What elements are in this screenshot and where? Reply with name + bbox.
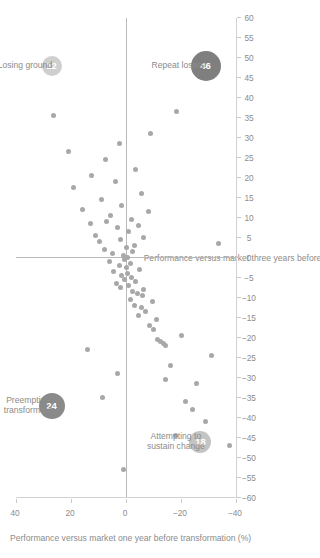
- y-tick-label: 40: [6, 508, 24, 518]
- x-tick-label: −5: [239, 273, 256, 283]
- x-tick-label: 45: [239, 73, 256, 83]
- y-tick: [236, 499, 237, 503]
- x-tick-label: 35: [239, 113, 256, 123]
- x-tick-label: 5: [239, 233, 256, 243]
- x-tick-label: 15: [239, 193, 256, 203]
- x-tick-label: −50: [239, 453, 256, 463]
- x-tick-label: −40: [239, 413, 256, 423]
- x-tick-label: −60: [239, 493, 256, 503]
- x-tick-label: 10: [239, 213, 256, 223]
- y-axis-title: Performance versus market one year befor…: [10, 533, 240, 543]
- x-tick-label: −10: [239, 293, 256, 303]
- x-tick-label: 55: [239, 33, 256, 43]
- x-tick-label: −25: [239, 353, 256, 363]
- label-attempting-to-sustain-change: Attempting tosustain change: [131, 432, 221, 452]
- x-tick-label: −55: [239, 473, 256, 483]
- chart-root: Performance versus market one year befor…: [0, 0, 256, 558]
- y-tick: [126, 499, 127, 503]
- y-axis-line: [16, 497, 237, 498]
- x-tick-label: −20: [239, 333, 256, 343]
- y-tick-label: −20: [171, 508, 189, 518]
- label-losing-ground: Losing ground: [0, 61, 70, 71]
- x-tick-label: −30: [239, 373, 256, 383]
- scatter-figure: Performance versus market one year befor…: [0, 0, 256, 558]
- x-axis-line: [236, 18, 237, 498]
- x-tick-label: 60: [239, 13, 256, 23]
- y-tick: [71, 499, 72, 503]
- label-repeat-losers: Repeat losers: [133, 61, 223, 71]
- x-tick-label: −15: [239, 313, 256, 323]
- x-tick-label: −45: [239, 433, 256, 443]
- y-tick-label: −40: [226, 508, 244, 518]
- x-tick-label: −35: [239, 393, 256, 403]
- x-tick-label: 50: [239, 53, 256, 63]
- y-tick: [16, 499, 17, 503]
- label-preemptive-transformers: Preemptivetransformers: [0, 396, 73, 416]
- y-tick-label: 0: [116, 508, 134, 518]
- x-tick-label: 0: [239, 253, 256, 263]
- x-tick-label: 20: [239, 173, 256, 183]
- y-tick-label: 20: [61, 508, 79, 518]
- x-tick-label: 30: [239, 133, 256, 143]
- y-tick: [181, 499, 182, 503]
- x-tick-label: 25: [239, 153, 256, 163]
- x-tick-label: 40: [239, 93, 256, 103]
